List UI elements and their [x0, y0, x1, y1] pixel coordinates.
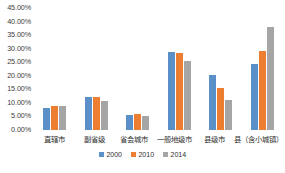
bar[interactable]	[184, 61, 191, 130]
bar[interactable]	[85, 97, 92, 130]
bar-group	[200, 8, 242, 130]
bar[interactable]	[209, 75, 216, 130]
y-axis-tick-label: 20.00%	[7, 72, 31, 79]
x-axis-category-labels: 直辖市副省级省会城市一般地级市县级市县（含小城镇）	[34, 136, 283, 150]
plot-region: 45.00%40.00%35.00%30.00%25.00%20.00%15.0…	[0, 0, 285, 136]
y-axis: 45.00%40.00%35.00%30.00%25.00%20.00%15.0…	[0, 0, 33, 136]
bar[interactable]	[101, 101, 108, 130]
y-axis-tick-label: 35.00%	[7, 32, 31, 39]
x-axis-category-label: 省会城市	[114, 136, 154, 143]
y-axis-tick-label: 30.00%	[7, 45, 31, 52]
chart-container: 45.00%40.00%35.00%30.00%25.00%20.00%15.0…	[0, 0, 285, 173]
bar-group	[242, 8, 284, 130]
y-axis-tick-label: 25.00%	[7, 59, 31, 66]
y-axis-tick-label: 10.00%	[7, 99, 31, 106]
bar[interactable]	[259, 51, 266, 130]
legend-color-swatch	[99, 152, 104, 157]
legend-color-swatch	[163, 152, 168, 157]
legend-label: 2010	[138, 151, 154, 158]
legend-color-swatch	[131, 152, 136, 157]
bar[interactable]	[93, 97, 100, 130]
legend-item[interactable]: 2000	[99, 151, 122, 158]
bar[interactable]	[59, 106, 66, 130]
bar[interactable]	[134, 114, 141, 130]
x-axis-category-label: 县级市	[194, 136, 234, 143]
legend-label: 2000	[106, 151, 122, 158]
bar[interactable]	[126, 115, 133, 130]
bar[interactable]	[225, 100, 232, 130]
bar[interactable]	[51, 106, 58, 130]
bar-group	[76, 8, 118, 130]
bar[interactable]	[251, 64, 258, 130]
x-axis-category-label: 直辖市	[34, 136, 74, 143]
y-axis-tick-label: 5.00%	[11, 113, 31, 120]
legend-label: 2014	[171, 151, 187, 158]
bar[interactable]	[142, 116, 149, 130]
x-axis-category-label: 副省级	[74, 136, 114, 143]
chart-legend: 200020102014	[0, 151, 285, 158]
bars-plot-area	[34, 8, 283, 130]
bar-group	[34, 8, 76, 130]
bar[interactable]	[176, 53, 183, 130]
bar[interactable]	[267, 27, 274, 130]
bar[interactable]	[43, 108, 50, 130]
y-axis-tick-label: 0.00%	[11, 126, 31, 133]
bar[interactable]	[168, 52, 175, 130]
legend-item[interactable]: 2014	[163, 151, 186, 158]
bar[interactable]	[217, 88, 224, 130]
x-axis-category-label: 一般地级市	[154, 136, 194, 143]
bar-group	[159, 8, 201, 130]
y-axis-tick-label: 15.00%	[7, 86, 31, 93]
x-axis-category-label: 县（含小城镇）	[234, 136, 283, 143]
y-axis-tick-label: 45.00%	[7, 4, 31, 11]
bar-group	[117, 8, 159, 130]
legend-item[interactable]: 2010	[131, 151, 154, 158]
y-axis-tick-label: 40.00%	[7, 18, 31, 25]
